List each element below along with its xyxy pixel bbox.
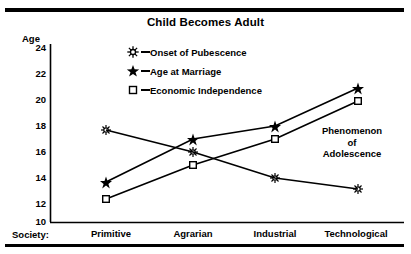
marker-age-at-marriage-technological	[352, 83, 364, 95]
marker-economic-independence-industrial	[272, 136, 279, 143]
series-line-age-at-marriage	[106, 88, 358, 182]
series-line-onset-of-pubescence	[106, 130, 358, 189]
marker-economic-independence-technological	[355, 98, 362, 105]
marker-economic-independence-primitive	[103, 196, 110, 203]
marker-age-at-marriage-industrial	[269, 121, 281, 133]
chart-figure: Child Becomes Adult Age 24 22 20 18 16 1…	[0, 0, 411, 254]
marker-age-at-marriage-primitive	[100, 177, 112, 189]
plot-area	[0, 0, 411, 254]
marker-age-at-marriage-agrarian	[187, 134, 199, 146]
marker-economic-independence-agrarian	[190, 162, 197, 169]
